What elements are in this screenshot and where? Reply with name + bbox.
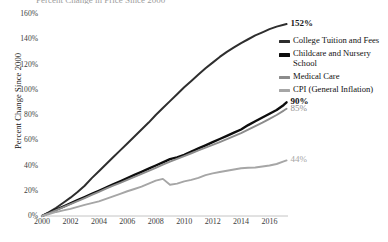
series-line-1: [42, 102, 287, 216]
legend-label: College Tuition and Fees: [293, 36, 379, 46]
legend-swatch-icon: [279, 40, 290, 43]
y-tick-label: 100%: [8, 86, 38, 94]
legend-item[interactable]: College Tuition and Fees: [279, 36, 388, 46]
line-chart: Percent Change in Price Since 2000 Perce…: [0, 0, 388, 242]
x-axis-tick-labels: 200020022004200620082010201220142016: [0, 218, 388, 232]
legend-item[interactable]: Childcare and Nursery School: [279, 49, 388, 68]
end-label-3: 44%: [291, 155, 308, 164]
series-line-3: [42, 160, 287, 216]
y-tick-label: 140%: [8, 35, 38, 43]
legend-swatch-icon: [279, 89, 290, 92]
series-lines: [42, 14, 288, 216]
y-tick-label: 80%: [8, 111, 38, 119]
y-tick-label: 40%: [8, 162, 38, 170]
end-label-2: 85%: [291, 104, 308, 113]
x-tick-label: 2016: [253, 218, 287, 226]
y-tick-label: 120%: [8, 61, 38, 69]
legend-swatch-icon: [279, 53, 290, 57]
legend-label: Childcare and Nursery School: [293, 49, 388, 68]
end-label-0: 152%: [291, 19, 314, 28]
y-axis-tick-labels: 0%20%40%60%80%100%120%140%160%: [8, 0, 38, 242]
legend-item[interactable]: Medical Care: [279, 72, 388, 82]
legend-label: Medical Care: [293, 72, 340, 82]
y-tick-label: 60%: [8, 136, 38, 144]
chart-legend: College Tuition and FeesChildcare and Nu…: [279, 36, 388, 98]
legend-swatch-icon: [279, 76, 290, 79]
chart-title-cutoff: Percent Change in Price Since 2000: [36, 0, 236, 4]
y-tick-label: 160%: [8, 10, 38, 18]
series-line-0: [42, 24, 287, 216]
plot-area: [42, 14, 288, 216]
legend-item[interactable]: CPI (General Inflation): [279, 85, 388, 95]
legend-label: CPI (General Inflation): [293, 85, 373, 95]
y-tick-label: 20%: [8, 187, 38, 195]
